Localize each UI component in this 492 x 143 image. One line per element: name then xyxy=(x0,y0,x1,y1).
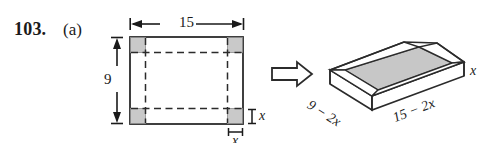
sheet-height-label: 9 xyxy=(104,72,112,87)
corner-height-label: x xyxy=(259,109,265,123)
figure-container: 103. (a) xyxy=(0,0,492,143)
sheet-outline xyxy=(130,37,243,124)
open-box-3d xyxy=(330,42,464,110)
height-dimension-arrow xyxy=(111,38,123,124)
corner-square-bottom-left xyxy=(131,109,146,124)
corner-square-top-left xyxy=(131,38,146,53)
box-height-label: x xyxy=(470,64,476,78)
sheet-width-label: 15 xyxy=(179,15,194,30)
diagram-svg xyxy=(0,0,492,143)
corner-square-bottom-right xyxy=(228,109,243,124)
right-block-arrow-icon xyxy=(272,62,312,86)
corner-width-label: x xyxy=(232,134,238,143)
corner-height-measure xyxy=(248,109,256,124)
corner-square-top-right xyxy=(228,38,243,53)
